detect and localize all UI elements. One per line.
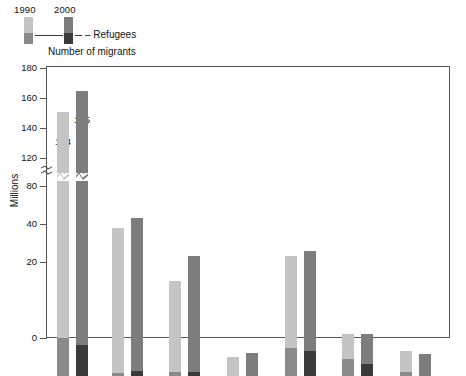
legend-connector-line xyxy=(35,35,63,36)
bar-anz-1990-migrants xyxy=(227,357,239,376)
bar-africa-1990[interactable] xyxy=(342,334,354,376)
bar-namerica-1990-refugees xyxy=(169,372,181,376)
chart-subtitle: Number of migrants xyxy=(48,46,136,57)
bar-group-latin-america: 7 1 6 Latin America and Caribbean xyxy=(392,104,448,376)
legend-swatch-1990-migrants xyxy=(24,17,33,33)
bar-europe-1990-migrants xyxy=(112,228,124,376)
y-tick-label-180: 180 xyxy=(11,62,37,73)
bar-africa-2000-refugees xyxy=(361,364,373,376)
bar-namerica-2000-migrants xyxy=(188,256,200,376)
bar-latam-2000[interactable] xyxy=(419,354,431,376)
legend-swatch-2000-migrants xyxy=(64,17,73,33)
bar-europe-2000-migrants xyxy=(131,218,143,376)
bar-group-north-america: 28 1 41 1 North America xyxy=(161,104,217,376)
bar-group-asia: 42 10 44 9 Asia xyxy=(277,104,333,376)
chart-legend: 1990 2000 – Refugees Number of migrants xyxy=(14,4,274,56)
legend-swatch-1990 xyxy=(24,17,33,44)
y-tick-label-20: 20 xyxy=(11,256,37,267)
legend-swatch-1990-refugees xyxy=(24,33,33,44)
bar-asia-2000-refugees xyxy=(304,351,316,376)
bar-group-australia-new-zealand: 5 6 Australia/ New Zealand xyxy=(219,104,275,376)
y-tick-160 xyxy=(40,98,47,99)
y-tick-label-140: 140 xyxy=(11,122,37,133)
bar-world-1990-migrants xyxy=(57,112,69,376)
bar-group-africa: 16 6 16 4 Africa xyxy=(334,104,390,376)
legend-year-2000: 2000 xyxy=(54,4,76,15)
bar-namerica-2000-refugees xyxy=(188,372,200,376)
legend-refugees-label: – Refugees xyxy=(85,29,136,40)
plot-right-border xyxy=(449,66,450,338)
bar-world-1990[interactable] xyxy=(57,112,69,376)
bar-anz-2000-migrants xyxy=(246,353,258,376)
bar-europe-2000-refugees xyxy=(131,371,143,376)
legend-swatch-2000 xyxy=(64,17,73,44)
bar-europe-2000[interactable] xyxy=(131,218,143,376)
bar-africa-2000[interactable] xyxy=(361,334,373,376)
y-tick-label-80: 80 xyxy=(11,180,37,191)
y-tick-label-160: 160 xyxy=(11,92,37,103)
bar-latam-1990[interactable] xyxy=(400,351,412,376)
bar-world-2000-break xyxy=(75,173,89,180)
bar-anz-1990[interactable] xyxy=(227,357,239,376)
legend-year-1990: 1990 xyxy=(14,4,36,15)
bar-asia-1990[interactable] xyxy=(285,256,297,376)
bar-asia-2000[interactable] xyxy=(304,251,316,376)
bar-group-europe: 57 1 62 2 Europe xyxy=(104,104,160,376)
bar-namerica-1990-migrants xyxy=(169,281,181,376)
bar-africa-1990-refugees xyxy=(342,359,354,376)
bar-namerica-2000[interactable] xyxy=(188,256,200,376)
y-tick-180 xyxy=(40,68,47,69)
bar-asia-1990-refugees xyxy=(285,348,297,376)
bar-world-1990-break xyxy=(56,173,70,180)
bar-latam-2000-migrants xyxy=(419,354,431,376)
bar-namerica-1990[interactable] xyxy=(169,281,181,376)
bar-anz-2000[interactable] xyxy=(246,353,258,376)
bar-latam-1990-refugees xyxy=(400,372,412,376)
y-tick-label-40: 40 xyxy=(11,218,37,229)
bar-world-2000-refugees xyxy=(76,345,88,376)
y-tick-label-120: 120 xyxy=(11,152,37,163)
plot-top-border xyxy=(46,66,450,67)
bar-europe-1990[interactable] xyxy=(112,228,124,376)
legend-dash-line xyxy=(75,35,82,36)
bar-world-1990-refugees xyxy=(57,338,69,376)
bar-group-world: 154 20 175 16 World xyxy=(46,104,102,376)
bar-world-2000-migrants xyxy=(76,91,88,376)
y-tick-label-0: 0 xyxy=(11,332,37,343)
migrants-bar-chart: 1990 2000 – Refugees Number of migrants … xyxy=(0,0,466,376)
legend-swatch-2000-refugees xyxy=(64,33,73,44)
bar-world-2000[interactable] xyxy=(76,91,88,376)
